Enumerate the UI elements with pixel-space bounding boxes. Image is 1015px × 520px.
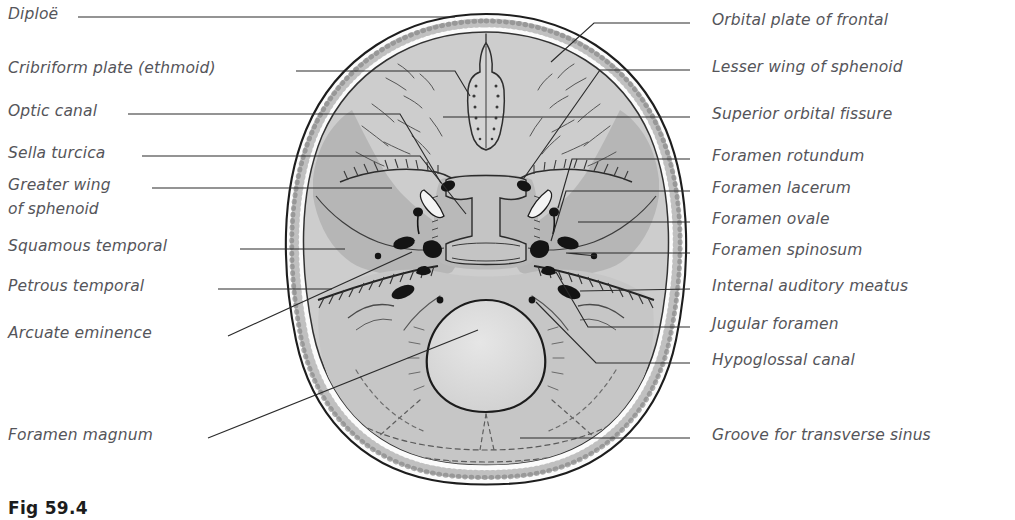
label-foramen-ovale-text: Foramen ovale — [712, 210, 830, 228]
label-greater-wing-of-sphenoid: Greater wing — [8, 177, 111, 194]
figure-caption: Fig 59.4 — [8, 498, 88, 518]
label-orbital-plate-of-frontal-text: Orbital plate of frontal — [712, 11, 888, 29]
label-internal-auditory-meatus-text: Internal auditory meatus — [712, 277, 908, 295]
label-petrous-temporal-text: Petrous temporal — [8, 277, 144, 295]
label-arcuate-eminence-text: Arcuate eminence — [8, 324, 152, 342]
label-foramen-ovale: Foramen ovale — [712, 211, 830, 228]
label-lesser-wing-of-sphenoid: Lesser wing of sphenoid — [712, 59, 903, 76]
label-greater-wing-text-line2: of sphenoid — [8, 200, 99, 218]
label-optic-canal: Optic canal — [8, 103, 97, 120]
label-greater-wing-line2: of sphenoid — [8, 200, 99, 218]
label-sella-turcica-text: Sella turcica — [8, 144, 106, 162]
label-diploe: Diploë — [8, 6, 58, 23]
label-diploe-text: Diploë — [8, 5, 58, 23]
label-foramen-spinosum: Foramen spinosum — [712, 242, 863, 259]
label-foramen-magnum-text: Foramen magnum — [8, 426, 153, 444]
label-hypoglossal-canal-text: Hypoglossal canal — [712, 351, 855, 369]
label-groove-for-transverse-sinus-text: Groove for transverse sinus — [712, 426, 931, 444]
label-greater-wing-text-line1: Greater wing — [8, 176, 111, 194]
label-orbital-plate-of-frontal: Orbital plate of frontal — [712, 12, 888, 29]
label-internal-auditory-meatus: Internal auditory meatus — [712, 278, 908, 295]
label-foramen-spinosum-text: Foramen spinosum — [712, 241, 863, 259]
label-cribriform-plate-text: Cribriform plate (ethmoid) — [8, 59, 216, 77]
label-cribriform-plate: Cribriform plate (ethmoid) — [8, 60, 216, 77]
label-foramen-lacerum-text: Foramen lacerum — [712, 179, 851, 197]
label-foramen-rotundum: Foramen rotundum — [712, 148, 864, 165]
label-groove-for-transverse-sinus: Groove for transverse sinus — [712, 427, 931, 444]
label-superior-orbital-fissure-text: Superior orbital fissure — [712, 105, 893, 123]
foramen-magnum — [427, 300, 546, 412]
label-foramen-rotundum-text: Foramen rotundum — [712, 147, 864, 165]
label-squamous-temporal-text: Squamous temporal — [8, 237, 167, 255]
label-foramen-lacerum: Foramen lacerum — [712, 180, 851, 197]
foramen-spinosum-left — [375, 253, 381, 259]
label-jugular-foramen-text: Jugular foramen — [712, 315, 839, 333]
label-petrous-temporal: Petrous temporal — [8, 278, 144, 295]
label-sella-turcica: Sella turcica — [8, 145, 106, 162]
label-superior-orbital-fissure: Superior orbital fissure — [712, 106, 893, 123]
label-hypoglossal-canal: Hypoglossal canal — [712, 352, 855, 369]
label-lesser-wing-of-sphenoid-text: Lesser wing of sphenoid — [712, 58, 903, 76]
label-arcuate-eminence: Arcuate eminence — [8, 325, 152, 342]
hypoglossal-canal-right — [529, 297, 536, 304]
label-squamous-temporal: Squamous temporal — [8, 238, 167, 255]
figure-root: Diploë Cribriform plate (ethmoid) Optic … — [0, 0, 1015, 520]
label-jugular-foramen: Jugular foramen — [712, 316, 839, 333]
foramen-rotundum-right — [549, 207, 559, 216]
hypoglossal-canal-left — [437, 297, 444, 304]
label-foramen-magnum: Foramen magnum — [8, 427, 153, 444]
label-optic-canal-text: Optic canal — [8, 102, 97, 120]
foramen-rotundum-left — [413, 207, 423, 216]
